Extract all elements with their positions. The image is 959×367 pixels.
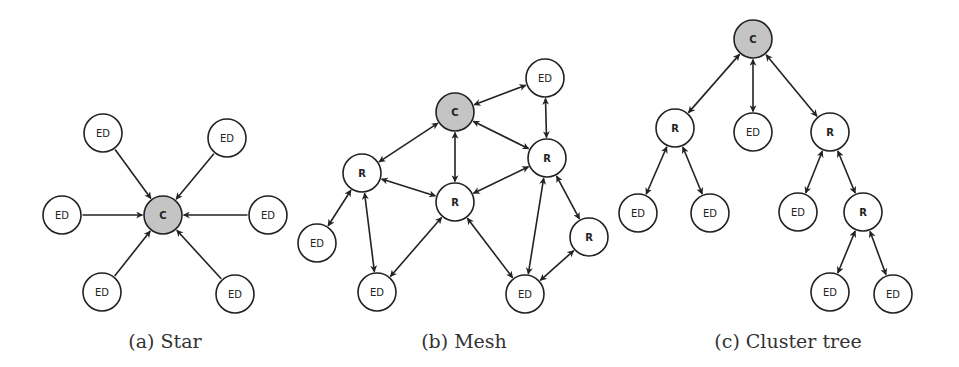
star-topology: CEDEDEDEDEDED(a) Star [43, 114, 287, 352]
edge-r2-r3 [838, 151, 855, 193]
end-device-node: ED [358, 273, 396, 311]
node-label: ED [370, 287, 384, 298]
node-label: R [358, 168, 366, 179]
edge-ed2-c [176, 154, 214, 199]
subfigure-caption: (b) Mesh [421, 330, 507, 352]
node-label: ED [55, 210, 69, 221]
end-device-node: ED [208, 119, 246, 157]
edge-ed1-r1 [546, 99, 547, 138]
edge-r3-ed4 [467, 218, 512, 277]
end-device-node: ED [734, 113, 772, 151]
edge-r3-ed6 [870, 231, 886, 274]
end-device-node: ED [526, 59, 564, 97]
edge-ed5-c [115, 231, 151, 276]
edge-r3-ed5 [838, 231, 855, 273]
edge-r1-r4 [557, 176, 580, 219]
end-device-node: ED [811, 273, 849, 311]
node-label: ED [95, 287, 109, 298]
node-label: R [451, 197, 459, 208]
edge-c-r1 [689, 54, 740, 112]
edge-r3-ed3 [390, 218, 441, 277]
node-label: ED [538, 73, 552, 84]
node-label: R [543, 153, 551, 164]
end-device-node: ED [249, 196, 287, 234]
node-label: R [826, 127, 834, 138]
network-topology-figure: CEDEDEDEDEDED(a) Star CEDRRRREDEDED(b) M… [0, 0, 959, 367]
node-label: ED [746, 127, 760, 138]
router-node: R [811, 113, 849, 151]
end-device-node: ED [506, 275, 544, 313]
node-label: R [585, 232, 593, 243]
node-label: ED [518, 289, 532, 300]
node-label: C [159, 210, 166, 221]
end-device-node: ED [83, 273, 121, 311]
node-label: ED [261, 210, 275, 221]
subfigure-caption: (c) Cluster tree [714, 330, 861, 352]
edge-r2-ed4 [806, 151, 823, 193]
edge-r4-ed4 [540, 251, 573, 281]
cluster-tree-topology: CREDREDEDEDREDED(c) Cluster tree [619, 20, 912, 352]
node-label: ED [228, 289, 242, 300]
edge-r1-ed4 [528, 178, 543, 274]
edge-ed1-c [115, 150, 151, 199]
router-node: R [528, 139, 566, 177]
end-device-node: ED [779, 193, 817, 231]
edge-c-r1 [473, 121, 528, 149]
router-node: R [343, 154, 381, 192]
router-node: R [844, 193, 882, 231]
node-label: C [749, 34, 756, 45]
edge-c-r2 [766, 55, 817, 116]
node-label: ED [96, 128, 110, 139]
node-label: R [671, 123, 679, 134]
router-node: R [570, 218, 608, 256]
router-node: R [656, 109, 694, 147]
edge-ed6-c [177, 230, 221, 279]
coordinator-node: C [734, 20, 772, 58]
subfigure-caption: (a) Star [128, 330, 202, 352]
node-label: ED [823, 287, 837, 298]
end-device-node: ED [84, 114, 122, 152]
edge-r2-r3 [382, 179, 436, 196]
edge-c-r2 [379, 123, 438, 162]
node-label: ED [310, 238, 324, 249]
node-label: ED [886, 289, 900, 300]
mesh-topology: CEDRRRREDEDED(b) Mesh [298, 59, 608, 352]
router-node: R [436, 183, 474, 221]
node-label: ED [703, 208, 717, 219]
edge-r1-ed3 [683, 147, 702, 194]
edge-r2-ed2 [328, 190, 351, 226]
edge-r1-ed2 [646, 147, 667, 194]
node-label: C [451, 107, 458, 118]
end-device-node: ED [691, 194, 729, 232]
end-device-node: ED [216, 275, 254, 313]
node-label: ED [631, 208, 645, 219]
node-label: R [859, 207, 867, 218]
node-label: ED [220, 133, 234, 144]
coordinator-node: C [144, 196, 182, 234]
edge-r2-ed3 [365, 193, 375, 271]
edge-c-ed1 [474, 85, 526, 105]
coordinator-node: C [436, 93, 474, 131]
end-device-node: ED [619, 194, 657, 232]
end-device-node: ED [43, 196, 81, 234]
edge-r3-r1 [474, 167, 529, 193]
end-device-node: ED [298, 224, 336, 262]
end-device-node: ED [874, 275, 912, 313]
node-label: ED [791, 207, 805, 218]
